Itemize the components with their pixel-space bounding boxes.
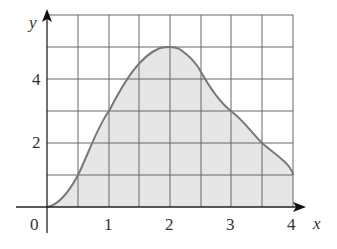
x-axis-label: x [313, 215, 321, 232]
x-tick-2: 2 [165, 216, 174, 233]
x-tick-4: 4 [287, 216, 296, 233]
y-tick-4: 4 [32, 71, 41, 88]
chart-canvas [0, 0, 337, 249]
origin-label: 0 [30, 216, 39, 233]
x-tick-3: 3 [226, 216, 235, 233]
y-tick-2: 2 [32, 134, 41, 151]
x-tick-1: 1 [104, 216, 113, 233]
y-axis-label: y [29, 14, 37, 31]
